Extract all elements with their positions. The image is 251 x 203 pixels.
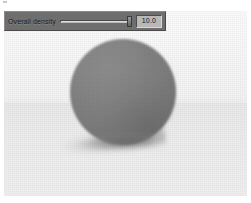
application-window: Overall density 10.0	[0, 0, 251, 203]
sphere-terminator-shading	[70, 39, 176, 145]
slider-track[interactable]	[60, 20, 132, 23]
overall-density-label: Overall density	[8, 17, 56, 26]
window-top-margin	[0, 0, 251, 11]
overall-density-slider[interactable]	[60, 14, 132, 28]
density-control-panel: Overall density 10.0	[4, 11, 166, 31]
sphere-contact-shadow	[90, 133, 164, 149]
slider-handle[interactable]	[127, 16, 132, 27]
corner-tick-icon	[3, 1, 7, 3]
3d-render-viewport[interactable]	[4, 11, 247, 196]
overall-density-value-field[interactable]: 10.0	[136, 15, 162, 28]
